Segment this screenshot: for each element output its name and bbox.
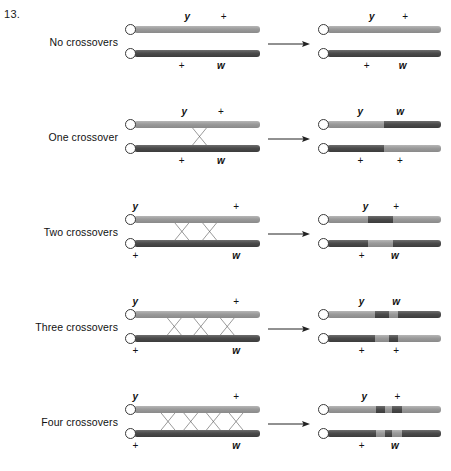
chromatid-segment (392, 430, 402, 437)
chromatid-segment (327, 26, 441, 33)
crossover-row-label: One crossover (0, 131, 118, 143)
allele-label: + (132, 440, 138, 451)
top-chromatid (327, 121, 441, 128)
chromatid-segment (368, 216, 393, 223)
allele-label: + (132, 345, 138, 356)
chromatid-segment (327, 240, 368, 247)
chromatid-segment (134, 406, 260, 413)
allele-label: w (232, 440, 240, 451)
chromatid-segment (327, 50, 441, 57)
chromatid-segment (376, 430, 385, 437)
centromere-icon (125, 119, 136, 130)
allele-label: + (233, 391, 239, 402)
chromatid-segment (134, 50, 260, 57)
allele-label: + (359, 250, 365, 261)
parental-chromosomes-panel: y++w (120, 103, 260, 193)
top-chromatid (327, 26, 441, 33)
chromatid-segment (375, 311, 389, 318)
parental-chromosomes-panel: y++w (120, 388, 260, 471)
chromatid-segment (134, 240, 260, 247)
centromere-icon (318, 428, 329, 439)
top-chromatid (327, 216, 441, 223)
chromatid-segment (393, 216, 441, 223)
top-chromatid (134, 121, 260, 128)
centromere-icon (318, 119, 329, 130)
allele-label: w (396, 106, 404, 117)
allele-label: w (217, 155, 225, 166)
allele-label: y (358, 106, 364, 117)
allele-label: y (369, 11, 375, 22)
bottom-chromatid (134, 50, 260, 57)
centromere-icon (318, 24, 329, 35)
allele-label: y (133, 296, 139, 307)
allele-label: + (395, 391, 401, 402)
chromatid-segment (368, 240, 393, 247)
chromatid-segment (398, 335, 441, 342)
centromere-icon (318, 333, 329, 344)
chromatid-segment (327, 335, 375, 342)
chromatid-segment (402, 430, 441, 437)
chromatid-segment (392, 406, 402, 413)
chromatid-segment (134, 430, 260, 437)
allele-label: + (132, 250, 138, 261)
allele-label: y (133, 201, 139, 212)
allele-label: + (233, 201, 239, 212)
chromatid-segment (327, 121, 384, 128)
allele-label: + (357, 155, 363, 166)
crossover-x-marks (134, 318, 260, 335)
chromatid-segment (389, 311, 398, 318)
allele-label: y (363, 201, 369, 212)
crossover-row-label: Three crossovers (0, 321, 118, 333)
chromatid-segment (134, 121, 260, 128)
allele-label: + (221, 11, 227, 22)
chromatid-segment (134, 311, 260, 318)
allele-label: w (391, 250, 399, 261)
chromatid-segment (398, 311, 441, 318)
crossover-row-label: Four crossovers (0, 416, 118, 428)
crossover-x-marks (134, 223, 260, 240)
centromere-icon (125, 238, 136, 249)
allele-label: w (391, 440, 399, 451)
chromatid-segment (327, 430, 376, 437)
chromatid-segment (402, 406, 441, 413)
bottom-chromatid (327, 50, 441, 57)
allele-label: + (393, 345, 399, 356)
allele-label: + (218, 106, 224, 117)
crossover-row: Three crossoversy++wyw++ (0, 293, 451, 383)
crossover-figure-page: 13. No crossoversy++wy++wOne crossovery+… (0, 0, 451, 471)
allele-label: + (359, 345, 365, 356)
allele-label: + (393, 201, 399, 212)
centromere-icon (125, 143, 136, 154)
centromere-icon (318, 404, 329, 415)
parental-chromosomes-panel: y++w (120, 8, 260, 98)
chromatid-segment (327, 406, 376, 413)
chromatid-segment (384, 121, 441, 128)
parental-chromosomes-panel: y++w (120, 198, 260, 288)
crossover-row: One crossovery++wyw++ (0, 103, 451, 193)
parental-chromosomes-panel: y++w (120, 293, 260, 383)
centromere-icon (318, 214, 329, 225)
top-chromatid (327, 406, 441, 413)
bottom-chromatid (327, 335, 441, 342)
allele-label: + (233, 296, 239, 307)
allele-label: w (232, 250, 240, 261)
chromatid-segment (389, 335, 398, 342)
right-arrow-icon (268, 228, 310, 240)
centromere-icon (318, 48, 329, 59)
top-chromatid (327, 311, 441, 318)
allele-label: w (392, 296, 400, 307)
top-chromatid (134, 26, 260, 33)
crossover-row: No crossoversy++wy++w (0, 8, 451, 98)
resulting-chromosomes-panel: y++w (313, 198, 441, 288)
top-chromatid (134, 216, 260, 223)
top-chromatid (134, 406, 260, 413)
chromatid-segment (134, 335, 260, 342)
chromatid-segment (134, 145, 260, 152)
chromatid-segment (385, 430, 392, 437)
centromere-icon (125, 214, 136, 225)
right-arrow-icon (268, 323, 310, 335)
chromatid-segment (327, 311, 375, 318)
bottom-chromatid (327, 240, 441, 247)
allele-label: + (402, 11, 408, 22)
allele-label: y (361, 391, 367, 402)
